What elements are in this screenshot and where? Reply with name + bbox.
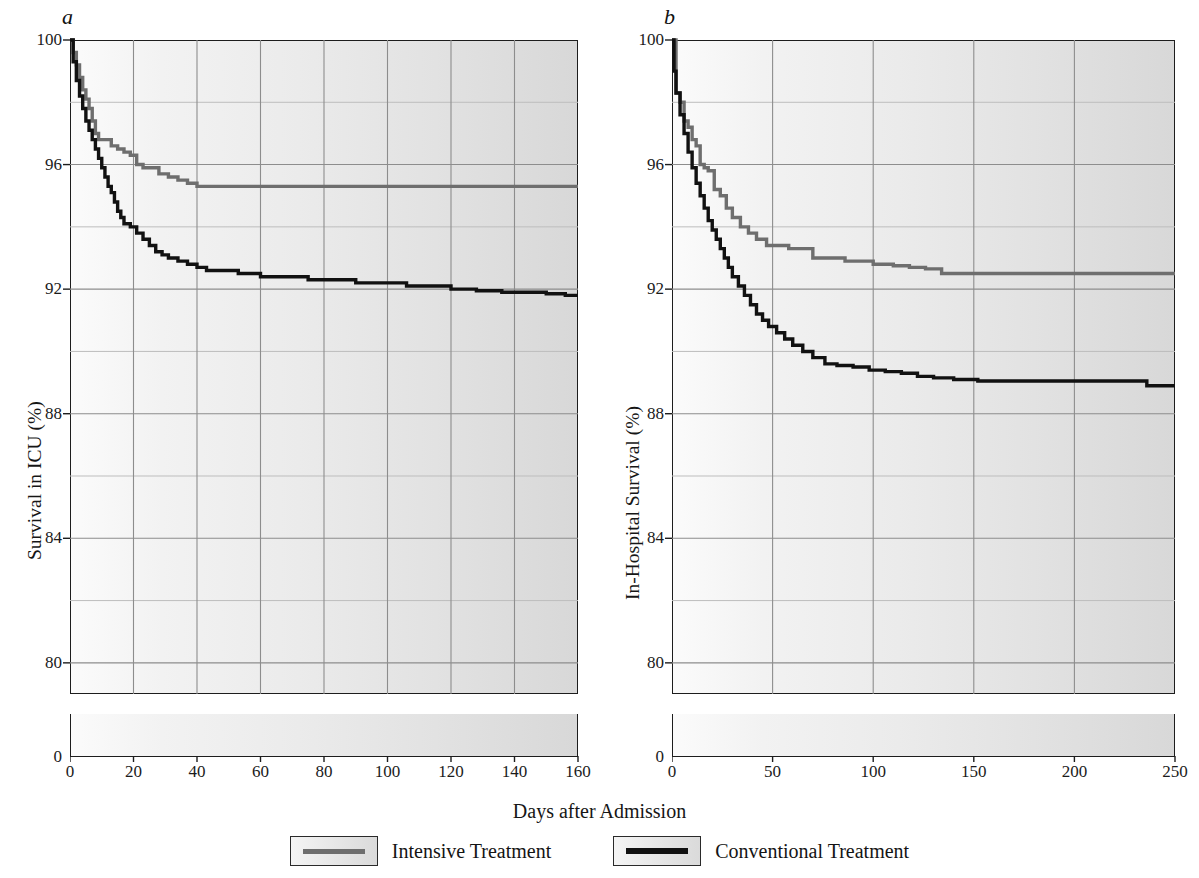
legend-item-intensive: Intensive Treatment	[290, 836, 551, 866]
panel-b-y-axis-title: In-Hospital Survival (%)	[622, 406, 644, 600]
legend: Intensive Treatment Conventional Treatme…	[0, 836, 1199, 866]
panel-b-axis-break-stub	[672, 714, 1175, 757]
panel-a-curves	[70, 40, 578, 694]
y-tick-label-88: 88	[614, 404, 664, 424]
panel-a-letter: a	[62, 4, 73, 30]
legend-line-icon	[626, 848, 688, 854]
panel-a: a Survival in ICU (%) 8084889296100 0204…	[0, 0, 600, 800]
legend-line-icon	[303, 849, 365, 854]
x-tick-marks	[70, 756, 582, 766]
y-tick-label-88: 88	[12, 404, 62, 424]
x-axis-title: Days after Admission	[0, 800, 1199, 823]
y-tick-label-100: 100	[12, 30, 62, 50]
y-tick-label-100: 100	[614, 30, 664, 50]
legend-label-intensive: Intensive Treatment	[392, 840, 551, 863]
panel-b-zero-tick-label: 0	[620, 747, 664, 767]
y-tick-label-80: 80	[614, 653, 664, 673]
legend-swatch-intensive	[290, 836, 378, 866]
y-tick-label-84: 84	[12, 528, 62, 548]
y-tick-label-96: 96	[12, 155, 62, 175]
y-tick-label-96: 96	[614, 155, 664, 175]
x-tick-marks	[672, 756, 1179, 766]
legend-label-conventional: Conventional Treatment	[715, 840, 909, 863]
panel-b-letter: b	[664, 4, 675, 30]
figure-survival-curves: a Survival in ICU (%) 8084889296100 0204…	[0, 0, 1199, 878]
panel-a-axis-break-stub	[70, 714, 578, 757]
panel-b: b In-Hospital Survival (%) 8084889296100…	[600, 0, 1199, 800]
legend-item-conventional: Conventional Treatment	[613, 836, 909, 866]
y-tick-label-92: 92	[614, 279, 664, 299]
panel-a-zero-tick-label: 0	[18, 747, 62, 767]
y-tick-label-84: 84	[614, 528, 664, 548]
y-tick-label-80: 80	[12, 653, 62, 673]
panel-b-curves	[672, 40, 1175, 694]
legend-swatch-conventional	[613, 836, 701, 866]
y-tick-label-92: 92	[12, 279, 62, 299]
